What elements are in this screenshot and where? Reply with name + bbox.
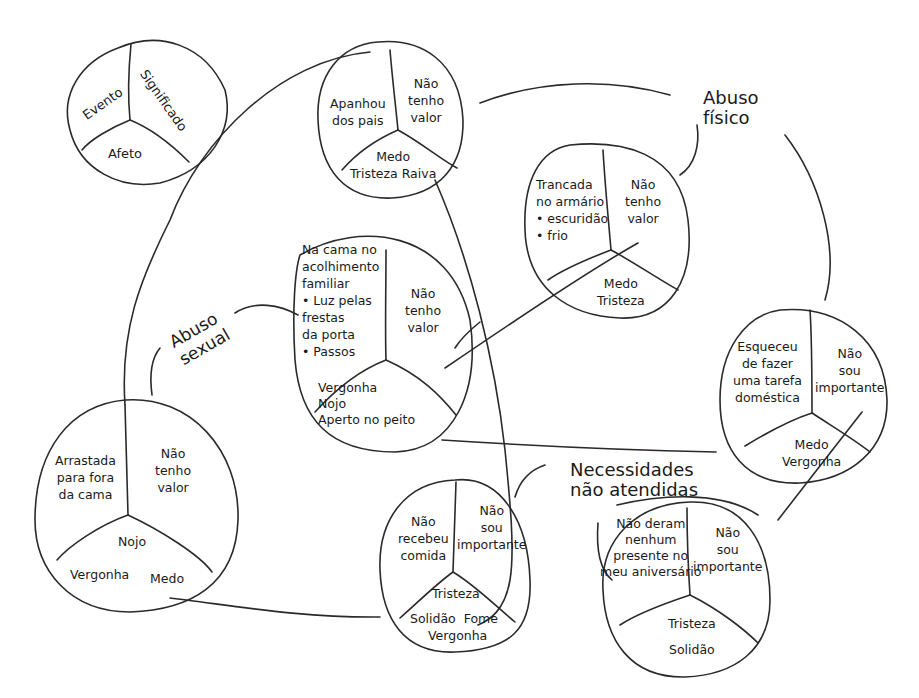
- node-trancada-affect: Medo Tristeza: [597, 275, 645, 309]
- legend-affect: Afeto: [108, 145, 142, 162]
- node-arrastada-affect-top: Nojo: [118, 533, 146, 550]
- connector-physical-trancada: [680, 125, 698, 175]
- node-cama-meaning: Não tenho valor: [405, 285, 441, 336]
- node-comida-affect-top: Tristeza: [432, 585, 480, 602]
- node-cama-event: Na cama no acolhimento familiar • Luz pe…: [302, 241, 379, 360]
- node-presente-affect: Tristeza Solidão: [668, 617, 716, 656]
- node-arrastada-event: Arrastada para fora da cama: [55, 452, 116, 503]
- node-arrastada-affect-left: Vergonha: [70, 566, 129, 583]
- category-unmet-needs: Necessidades não atendidas: [570, 460, 698, 500]
- node-presente-event: Não deram nenhum presente no meu anivers…: [600, 516, 701, 580]
- node-presente-meaning: Não sou importante: [693, 524, 762, 575]
- node-apanhou-meaning: Não tenho valor: [408, 75, 444, 126]
- connector-physical-esqueceu: [785, 135, 830, 300]
- node-esqueceu-event: Esqueceu de fazer uma tarefa doméstica: [733, 338, 802, 406]
- node-comida-meaning: Não sou importante: [457, 502, 526, 553]
- category-physical-abuse: Abuso físico: [703, 88, 759, 128]
- node-cama-affect: Vergonha Nojo Aperto no peito: [318, 380, 415, 428]
- connector-physical-top: [480, 84, 670, 103]
- connector-unmet-comida: [515, 465, 545, 497]
- node-trancada-meaning: Não tenho valor: [625, 176, 661, 227]
- node-comida-affect-bottom: Vergonha: [428, 627, 487, 644]
- node-arrastada-affect-right: Medo: [150, 570, 184, 587]
- node-trancada-event: Trancada no armário • escuridão • frio: [536, 176, 608, 244]
- connector-sexual-cama: [235, 305, 298, 315]
- node-esqueceu-affect: Medo Vergonha: [782, 436, 841, 470]
- node-apanhou-event: Apanhou dos pais: [330, 95, 386, 129]
- node-comida-event: Não recebeu comida: [398, 513, 449, 564]
- node-esqueceu-meaning: Não sou importante: [815, 345, 884, 396]
- node-arrastada-meaning: Não tenho valor: [155, 445, 191, 496]
- node-circle-arrastada: [35, 400, 238, 612]
- connector-cama-esqueceu: [442, 440, 716, 452]
- node-apanhou-affect: Medo Tristeza Raiva: [350, 148, 436, 182]
- connector-sexual-arrastada: [151, 348, 160, 395]
- node-comida-affect-mid: Solidão Fome: [410, 610, 498, 627]
- connector-arrastada-comida: [170, 598, 380, 617]
